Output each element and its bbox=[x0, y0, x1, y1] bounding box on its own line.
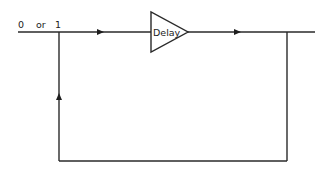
delay-block: Delay bbox=[151, 12, 188, 52]
input-label-or: or bbox=[36, 19, 46, 30]
input-label-one: 1 bbox=[55, 19, 61, 30]
input-arrow-icon bbox=[97, 29, 104, 35]
feedback-arrow-up-icon bbox=[56, 93, 62, 100]
delay-label: Delay bbox=[153, 27, 181, 38]
delay-feedback-diagram: 0 or 1 Delay bbox=[0, 0, 336, 181]
input-label-zero: 0 bbox=[18, 19, 24, 30]
output-arrow-icon bbox=[234, 29, 241, 35]
